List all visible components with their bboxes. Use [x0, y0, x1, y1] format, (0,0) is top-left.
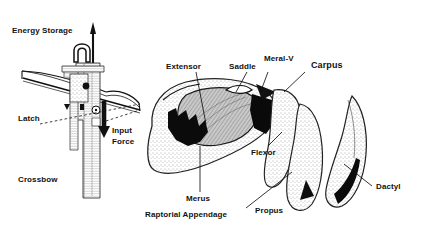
label-input-force-line2: Force: [112, 137, 134, 147]
crossbow-drawing: [22, 22, 140, 198]
label-dactyl: Dactyl: [376, 182, 401, 192]
label-saddle: Saddle: [229, 62, 256, 72]
label-latch: Latch: [18, 114, 40, 124]
label-extensor: Extensor: [166, 62, 201, 72]
label-merus: Merus: [186, 194, 210, 204]
label-input-force-line1: Input: [112, 126, 132, 136]
label-raptorial-appendage: Raptorial Appendage: [145, 210, 227, 220]
label-carpus: Carpus: [311, 60, 343, 70]
label-energy-storage: Energy Storage: [12, 26, 73, 36]
label-crossbow: Crossbow: [18, 175, 57, 185]
label-meral-v: Meral-V: [264, 54, 294, 64]
label-propus: Propus: [255, 206, 283, 216]
figure-container: Energy Storage Latch Input Force Crossbo…: [0, 0, 425, 231]
raptorial-appendage-drawing: [148, 72, 372, 210]
label-flexor: Flexor: [251, 148, 276, 158]
